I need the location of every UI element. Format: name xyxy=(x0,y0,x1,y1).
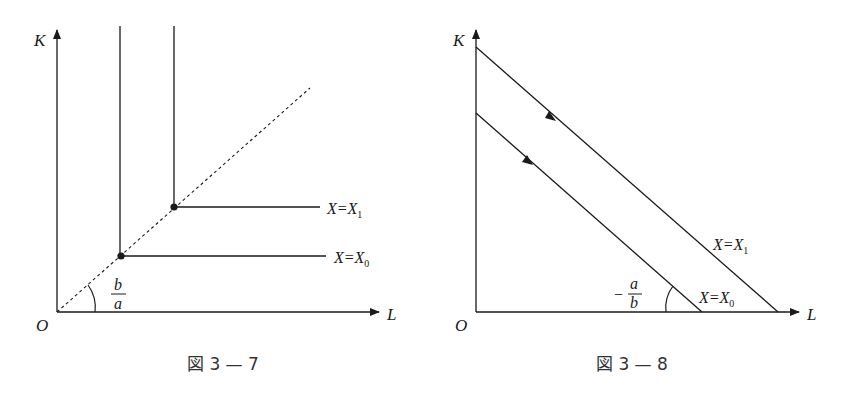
expansion-ray xyxy=(57,88,310,312)
slope-numerator: b xyxy=(114,276,122,293)
svg-text:X=X1: X=X1 xyxy=(712,236,748,256)
origin-label: O xyxy=(455,316,467,335)
angle-arc xyxy=(88,285,95,312)
direction-arrow-x0 xyxy=(522,155,533,165)
figures-canvas: K L O b a X=X1 X=X0 図 3 — 7 K L O − a xyxy=(0,0,847,399)
isoquant-x0 xyxy=(476,113,702,312)
slope-sign: − xyxy=(613,286,624,303)
l-axis-label: L xyxy=(386,305,396,324)
slope-numerator: a xyxy=(630,275,638,292)
origin-label: O xyxy=(36,316,48,335)
isoquant-x0-label: X=X0 xyxy=(698,289,734,309)
isoquant-x0 xyxy=(120,26,326,256)
k-axis-label: K xyxy=(452,31,466,50)
svg-text:X=X0: X=X0 xyxy=(698,289,734,309)
angle-arc xyxy=(666,286,673,312)
isoquant-x0-label: X=X0 xyxy=(333,249,369,269)
isoquant-x1-label: X=X1 xyxy=(712,236,748,256)
svg-text:X=X0: X=X0 xyxy=(333,249,369,269)
svg-text:X=X1: X=X1 xyxy=(326,200,362,220)
k-axis-label: K xyxy=(33,31,47,50)
slope-denominator: b xyxy=(630,294,638,311)
figure-3-7: K L O b a X=X1 X=X0 図 3 — 7 xyxy=(33,26,396,374)
isoquant-x1 xyxy=(476,47,778,312)
isoquant-x1 xyxy=(174,26,320,207)
figure-3-8: K L O − a b X=X1 X=X0 図 3 — 8 xyxy=(452,30,816,374)
slope-denominator: a xyxy=(114,295,122,312)
corner-point-x0 xyxy=(117,252,124,259)
figure-caption: 図 3 — 8 xyxy=(596,354,668,374)
corner-point-x1 xyxy=(170,203,177,210)
isoquant-x1-label: X=X1 xyxy=(326,200,362,220)
l-axis-label: L xyxy=(806,305,816,324)
figure-caption: 図 3 — 7 xyxy=(187,354,259,374)
